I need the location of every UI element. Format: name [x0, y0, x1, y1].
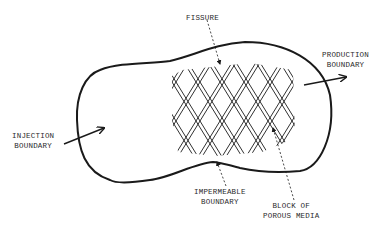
impermeable-label-line1: IMPERMEABLE — [194, 187, 246, 197]
production-arrow-icon — [304, 77, 346, 85]
porous-label-line2: POROUS MEDIA — [263, 211, 319, 221]
production-label-line1: PRODUCTION — [322, 50, 369, 60]
porous-block-label: BLOCK OF POROUS MEDIA — [263, 201, 319, 221]
reservoir-boundary — [77, 42, 331, 182]
production-boundary-label: PRODUCTION BOUNDARY — [322, 50, 369, 70]
porous-label-line1: BLOCK OF — [263, 201, 319, 211]
injection-label-line2: BOUNDARY — [12, 141, 54, 151]
porous-block-leader — [273, 128, 294, 200]
fissure-label: FISSURE — [186, 13, 219, 23]
injection-label-line1: INJECTION — [12, 131, 54, 141]
injection-boundary-label: INJECTION BOUNDARY — [12, 131, 54, 151]
impermeable-boundary-label: IMPERMEABLE BOUNDARY — [194, 187, 246, 207]
impermeable-label-line2: BOUNDARY — [194, 197, 246, 207]
fissure-leader — [207, 20, 220, 64]
impermeable-leader — [217, 162, 226, 186]
production-label-line2: BOUNDARY — [322, 60, 369, 70]
fissure-label-text: FISSURE — [186, 14, 219, 22]
injection-arrow-icon — [64, 128, 104, 144]
